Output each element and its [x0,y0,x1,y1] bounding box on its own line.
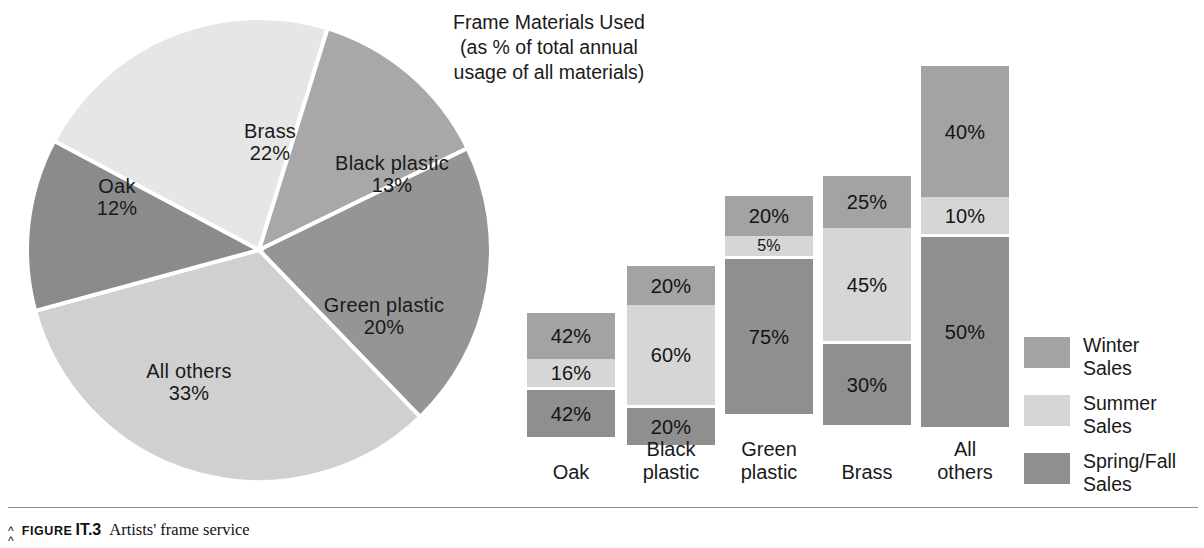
legend-label-line-2: Sales [1083,415,1157,438]
bar-stack-oak: 42%16%42% [527,313,615,428]
bar-segment-value: 45% [847,275,888,295]
bar-stack-all-others: 40%10%50% [921,66,1009,428]
legend-label-spring-fall: Spring/FallSales [1083,450,1176,496]
stacked-bar-chart: 42%16%42%Oak20%60%20%Blackplastic20%5%75… [505,60,1025,490]
bar-segment-all-others-spring-fall-sales: 50% [921,237,1009,427]
bar-segment-black-plastic-winter-sales: 20% [627,266,715,305]
bar-segment-green-plastic-summer-sales: 5% [725,236,813,256]
bar-category-label-green-plastic: Greenplastic [719,438,819,484]
bar-segment-value: 25% [847,192,888,212]
legend-label-winter: WinterSales [1083,334,1139,380]
bar-segment-value: 30% [847,375,888,395]
bar-segment-oak-spring-fall-sales: 42% [527,390,615,437]
bar-segment-value: 20% [749,206,790,226]
legend-swatch-spring-fall [1024,453,1070,484]
bar-category-label-brass: Brass [817,461,917,484]
bar-category-label-line-1: Black [621,438,721,461]
footer-divider [8,507,1198,508]
bar-segment-green-plastic-winter-sales: 20% [725,196,813,236]
legend-swatch-winter [1024,337,1070,368]
bar-segment-value: 42% [551,326,592,346]
legend-label-line-2: Sales [1083,357,1139,380]
bar-category-label-black-plastic: Blackplastic [621,438,721,484]
pie-slice-group [27,18,491,482]
bar-segment-brass-spring-fall-sales: 30% [823,344,911,425]
bar-segment-value: 75% [749,327,790,347]
legend-item-spring-fall: Spring/FallSales [1024,450,1194,496]
bar-segment-brass-winter-sales: 25% [823,176,911,228]
bar-segment-brass-summer-sales: 45% [823,228,911,341]
bar-stack-black-plastic: 20%60%20% [627,266,715,428]
bar-segment-value: 5% [757,238,781,254]
bar-category-label-all-others: Allothers [915,438,1015,484]
bar-segment-value: 20% [651,276,692,296]
legend-item-summer: SummerSales [1024,392,1194,438]
legend-label-line-1: Spring/Fall [1083,450,1176,473]
legend-swatch-summer [1024,395,1070,426]
chart-legend: WinterSalesSummerSalesSpring/FallSales [1024,334,1194,508]
bar-stack-brass: 25%45%30% [823,176,911,428]
bar-category-label-line-2: others [915,461,1015,484]
caption-figure-number: IT.3 [75,521,101,539]
caption-figure-word: FIGURE [22,524,73,538]
bar-segment-value: 10% [945,206,986,226]
legend-label-line-1: Winter [1083,334,1139,357]
bar-segment-value: 42% [551,404,592,424]
bar-segment-green-plastic-spring-fall-sales: 75% [725,259,813,414]
legend-label-line-1: Summer [1083,392,1157,415]
bar-segment-value: 50% [945,322,986,342]
bar-segment-all-others-winter-sales: 40% [921,66,1009,197]
bar-category-label-line-1: All [915,438,1015,461]
bar-category-label-line-1: Brass [817,461,917,484]
figure-caption: ^^ FIGURE IT.3 Artists' frame service [8,520,250,546]
legend-item-winter: WinterSales [1024,334,1194,380]
bar-segment-value: 16% [551,363,592,383]
bar-segment-value: 60% [651,345,692,365]
bar-category-label-line-1: Green [719,438,819,461]
legend-label-line-2: Sales [1083,473,1176,496]
bar-segment-value: 40% [945,122,986,142]
bar-segment-value: 20% [651,417,692,437]
bar-segment-oak-winter-sales: 42% [527,313,615,359]
bar-category-label-line-2: plastic [621,461,721,484]
bar-segment-oak-summer-sales: 16% [527,359,615,387]
chart-title-line-2: (as % of total annual [404,35,694,60]
bar-category-label-line-2: plastic [719,461,819,484]
bar-stack-green-plastic: 20%5%75% [725,196,813,428]
caption-text: Artists' frame service [109,520,249,540]
bar-category-label-oak: Oak [521,461,621,484]
bar-segment-all-others-summer-sales: 10% [921,197,1009,234]
bar-segment-black-plastic-summer-sales: 60% [627,305,715,405]
chart-title-line-1: Frame Materials Used [404,10,694,35]
bar-category-label-line-1: Oak [521,461,621,484]
legend-label-summer: SummerSales [1083,392,1157,438]
figure-page: Brass22%Black plastic13%Green plastic20%… [0,0,1204,548]
caret-marker-icon: ^^ [8,527,14,546]
